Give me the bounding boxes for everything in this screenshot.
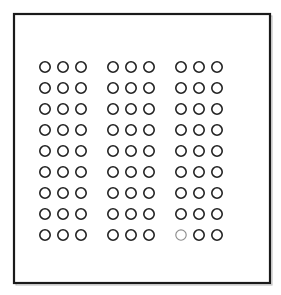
pad-circle [108,104,118,114]
pad-circle [76,167,86,177]
pad-circle [40,146,50,156]
pad-circle [76,188,86,198]
pad-circle [126,167,136,177]
figure-root: Grid array package outline drawing [0,0,281,295]
pad-row [40,62,222,72]
package-outline-group [14,14,272,285]
pad-row [40,188,222,198]
pad-circle [194,125,204,135]
pad-circle [108,146,118,156]
pad-circle [176,230,186,240]
pad-row [40,230,222,240]
pad-circle [40,104,50,114]
pad-circle [212,146,222,156]
pad-circle [126,62,136,72]
pad-circle [176,188,186,198]
pad-row [40,83,222,93]
pad-circle [76,62,86,72]
pad-row [40,104,222,114]
pad-row [40,125,222,135]
pad-row [40,146,222,156]
pad-circle [212,188,222,198]
pad-circle [144,209,154,219]
pad-circle [76,83,86,93]
pad-circle [194,230,204,240]
pad-circle [58,104,68,114]
pad-circle [144,104,154,114]
pad-circle [144,188,154,198]
pad-circle [76,230,86,240]
pad-circle [194,209,204,219]
pad-circle [144,167,154,177]
pad-circle [194,167,204,177]
pad-circle [108,230,118,240]
pad-circle [108,188,118,198]
pad-circle [212,62,222,72]
pad-circle [126,83,136,93]
pad-circle [40,167,50,177]
pad-circle [76,125,86,135]
pad-circle [194,146,204,156]
pad-circle [212,125,222,135]
pad-circle [176,104,186,114]
pad-circle [176,83,186,93]
pad-circle [144,83,154,93]
pad-circle [58,62,68,72]
pad-circle [194,188,204,198]
pad-circle [144,62,154,72]
pad-circle [40,83,50,93]
pad-circle [212,104,222,114]
pad-circle [126,146,136,156]
pad-circle [144,146,154,156]
pad-circle [76,209,86,219]
pad-circle [40,125,50,135]
pad-circle [194,62,204,72]
pad-circle [58,83,68,93]
pad-circle [176,62,186,72]
pad-circle [108,125,118,135]
pad-circle [40,188,50,198]
pad-circle [176,125,186,135]
pad-circle [40,62,50,72]
pad-circle [126,230,136,240]
pad-circle [58,146,68,156]
pad-row [40,209,222,219]
pad-circle [58,167,68,177]
pad-circle [40,230,50,240]
pad-circle [194,104,204,114]
pad-circle [108,83,118,93]
pad-circle [108,209,118,219]
package-outline-rect [14,14,270,283]
pad-circle [194,83,204,93]
pad-circle [40,209,50,219]
pad-circle [108,62,118,72]
pad-circle [212,230,222,240]
pad-circle [144,125,154,135]
pad-circle [176,167,186,177]
pad-circle [58,230,68,240]
pad-circle [176,146,186,156]
pad-circle [126,104,136,114]
pad-circle [76,104,86,114]
pad-circle [212,83,222,93]
grid-array-figure [0,0,281,295]
pad-circle [126,188,136,198]
pad-circle [212,209,222,219]
pad-circle [58,209,68,219]
pad-grid [40,62,222,240]
pad-circle [176,209,186,219]
pad-row [40,167,222,177]
pad-circle [126,209,136,219]
pad-circle [76,146,86,156]
pad-circle [108,167,118,177]
pad-circle [126,125,136,135]
pad-circle [58,125,68,135]
pad-circle [58,188,68,198]
pad-circle [144,230,154,240]
pad-circle [212,167,222,177]
